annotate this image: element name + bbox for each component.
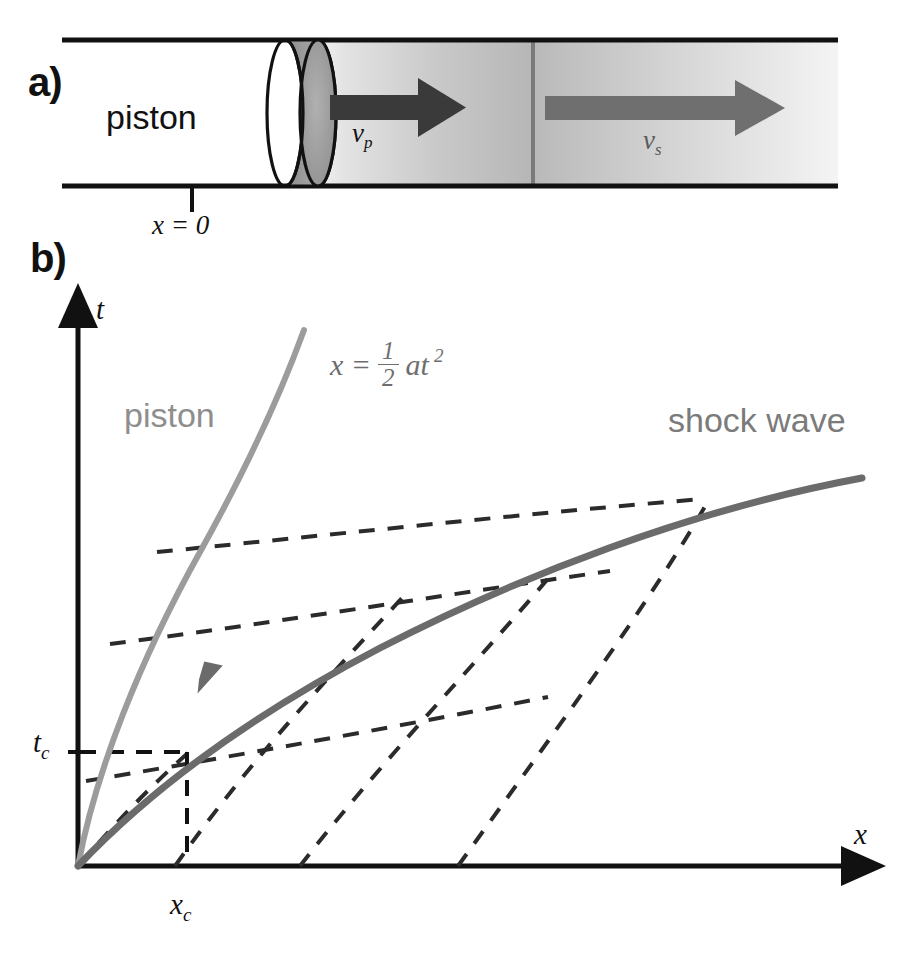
shock-trajectory-curve [78,478,862,866]
figure-root: a) piston vp vs x = 0 [0,0,908,962]
panel-b-xt-diagram [0,0,908,962]
axis-characteristic-2 [300,568,557,866]
t-axis-label: t [96,295,104,324]
equation-denominator: 2 [378,364,399,391]
equation-lhs: x = [330,350,371,380]
axis-characteristic-1 [175,598,402,866]
xc-axis-label: xc [170,890,191,924]
panel-b-label: b) [30,238,66,278]
piston-equation: x = 1 2 at2 [330,338,443,392]
tc-subscript: c [41,742,49,763]
axis-characteristics-group [175,503,707,866]
equation-exponent: 2 [434,346,444,365]
xc-subscript: c [183,904,191,925]
shock-wave-curve-label: shock wave [668,403,846,437]
tc-symbol: t [33,726,41,758]
equation-fraction: 1 2 [378,338,399,392]
equation-body: at [406,350,429,380]
x-axis-label: x [854,820,867,849]
tc-axis-label: tc [33,728,50,762]
xc-symbol: x [170,888,183,920]
shock-direction-arrowhead [194,660,225,694]
equation-numerator: 1 [378,338,399,364]
piston-curve-label: piston [124,398,215,432]
piston-characteristic-1 [86,697,548,781]
